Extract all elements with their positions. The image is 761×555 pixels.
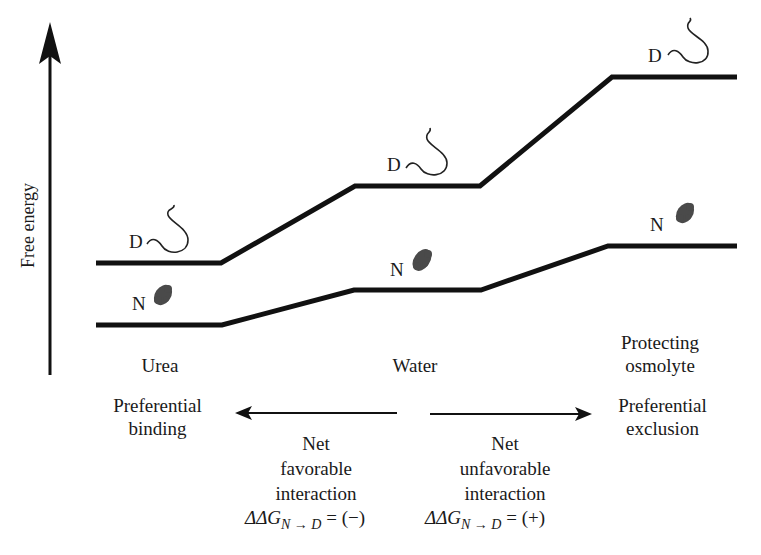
- left-ddg-equation: ΔΔGN → D = (−): [245, 507, 365, 533]
- energy-diagram: [0, 0, 761, 555]
- unfolded-chain-icon-urea: [147, 205, 188, 252]
- state-label-d-water: D: [387, 154, 401, 176]
- state-label-d-osmolyte: D: [648, 45, 662, 67]
- interaction-urea: Preferential binding: [95, 394, 220, 440]
- right-ddg-equation: ΔΔGN → D = (+): [425, 507, 545, 533]
- interaction-osmolyte: Preferential exclusion: [600, 394, 725, 440]
- axis-label: Free energy: [18, 176, 39, 276]
- denatured-level-line: [96, 77, 737, 263]
- state-label-n-urea: N: [132, 293, 146, 315]
- folded-protein-icon-water: [409, 246, 436, 275]
- condition-water: Water: [365, 354, 465, 377]
- condition-urea: Urea: [110, 354, 210, 377]
- folded-protein-icon-urea: [150, 281, 176, 308]
- state-label-n-water: N: [390, 259, 404, 281]
- condition-osmolyte: Protecting osmolyte: [600, 331, 720, 377]
- right-arrow-label: Net unfavorable interaction: [440, 431, 570, 506]
- state-label-n-osmolyte: N: [650, 214, 664, 236]
- unfolded-chain-icon-osmolyte: [668, 18, 708, 63]
- unfolded-chain-icon-water: [406, 128, 447, 175]
- folded-protein-icon-osmolyte: [672, 199, 698, 226]
- state-label-d-urea: D: [129, 231, 143, 253]
- left-arrow-label: Net favorable interaction: [256, 431, 376, 506]
